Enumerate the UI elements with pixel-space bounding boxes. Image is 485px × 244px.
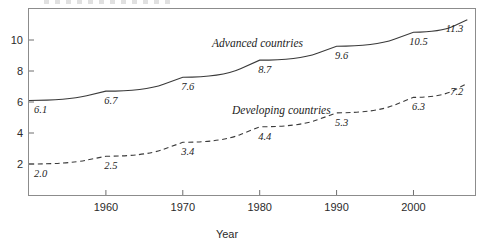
y-tick-label: 10 (11, 34, 23, 46)
series-line-developing-countries (29, 83, 467, 164)
data-point-label: 2.5 (104, 160, 117, 171)
cropped-title-artifact (44, 0, 174, 4)
x-axis-ticks (106, 190, 414, 195)
data-point-label: 5.3 (335, 117, 348, 128)
x-tick-label: 1960 (94, 201, 118, 213)
data-point-label: 11.3 (446, 23, 464, 34)
x-tick-label: 1980 (247, 201, 271, 213)
y-axis-tick-labels: 246810 (11, 34, 23, 170)
x-tick-label: 1990 (324, 201, 348, 213)
x-axis-tick-labels: 19601970198019902000 (94, 201, 426, 213)
x-tick-label: 2000 (401, 201, 425, 213)
data-point-label: 6.7 (104, 95, 118, 106)
chart-canvas: 246810 19601970198019902000 6.16.77.68.7… (0, 0, 485, 244)
data-point-label: 9.6 (335, 50, 349, 61)
data-point-label: 2.0 (34, 168, 48, 179)
line-chart: 246810 19601970198019902000 6.16.77.68.7… (0, 0, 485, 244)
y-axis-ticks (29, 40, 34, 164)
y-tick-label: 2 (17, 158, 23, 170)
data-point-label: 7.2 (450, 86, 464, 97)
data-point-label: 6.1 (34, 104, 47, 115)
x-axis-title: Year (216, 228, 239, 240)
y-tick-label: 8 (17, 65, 23, 77)
y-tick-label: 4 (17, 127, 23, 139)
data-point-label: 10.5 (409, 36, 427, 47)
series-line-advanced-countries (29, 20, 467, 101)
data-point-label: 8.7 (258, 64, 272, 75)
x-tick-label: 1970 (171, 201, 195, 213)
data-point-label: 6.3 (412, 101, 425, 112)
data-point-label: 3.4 (180, 146, 195, 157)
series-label-developing: Developing countries (231, 104, 331, 117)
y-tick-label: 6 (17, 96, 23, 108)
data-point-label: 7.6 (181, 81, 195, 92)
data-point-label: 4.4 (258, 131, 272, 142)
series-label-advanced: Advanced countries (211, 37, 304, 49)
